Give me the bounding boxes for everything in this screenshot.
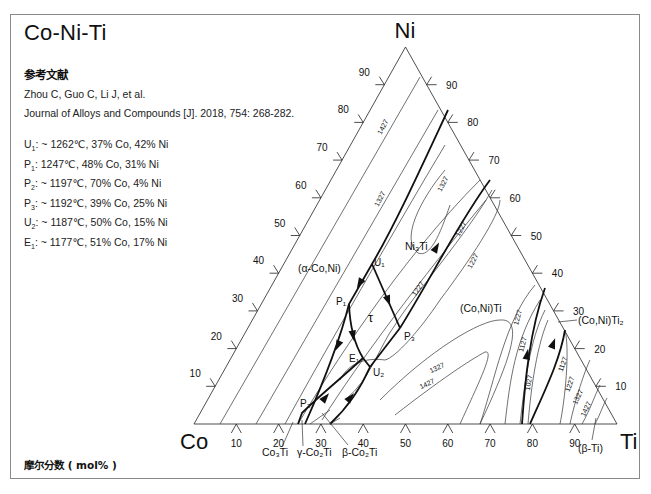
isotherm-line bbox=[380, 320, 513, 424]
phase-label-co-ni-ti: (Co,Ni)Ti bbox=[460, 302, 502, 314]
corner-label-co: Co bbox=[180, 429, 208, 454]
left-tick-label: 30 bbox=[232, 293, 244, 304]
phase-label-beta-co2ti: β-Co₂Ti bbox=[342, 446, 377, 458]
ternary-diagram: 1090102080203070304060405050506040607030… bbox=[0, 0, 651, 494]
isotherm-label: 1427 bbox=[418, 377, 435, 390]
isotherm-label: 1427 bbox=[579, 400, 592, 417]
isotherm-line bbox=[310, 410, 330, 424]
phase-label-ni3ti: Ni₃Ti bbox=[405, 240, 428, 252]
bottom-tick-label: 50 bbox=[400, 438, 412, 449]
right-tick-label: 50 bbox=[531, 231, 543, 242]
phase-label-tau: τ bbox=[368, 310, 374, 325]
left-tick-label: 60 bbox=[295, 180, 307, 191]
left-tick-label: 40 bbox=[253, 255, 265, 266]
isotherm-label: 1227 bbox=[512, 309, 523, 326]
univariant-line bbox=[370, 328, 400, 367]
isotherm-label: 1327 bbox=[436, 175, 450, 192]
phase-label-co-ni-ti2: (Co,Ni)Ti₂ bbox=[578, 314, 624, 326]
isotherm-label: 1327 bbox=[571, 388, 584, 405]
left-tick-label: 80 bbox=[338, 104, 350, 115]
isotherm-label: 1227 bbox=[564, 376, 576, 393]
right-tick-label: 70 bbox=[488, 155, 500, 166]
left-tick-label: 10 bbox=[190, 368, 202, 379]
right-tick-label: 80 bbox=[467, 117, 479, 128]
right-tick-label: 60 bbox=[510, 193, 522, 204]
phase-label-gamma-co2ti: γ-Co₂Ti bbox=[297, 446, 332, 458]
isotherm-line bbox=[528, 320, 548, 424]
right-tick-label: 10 bbox=[615, 381, 627, 392]
right-tick-label: 40 bbox=[552, 268, 564, 279]
direction-arrow-icon bbox=[350, 331, 355, 338]
direction-arrow-icon bbox=[432, 245, 438, 252]
point-label-u1: U₁ bbox=[374, 257, 385, 268]
point-label-u2: U₂ bbox=[373, 367, 384, 378]
univariant-line bbox=[372, 264, 400, 328]
univariant-line bbox=[298, 358, 363, 424]
left-tick-label: 20 bbox=[211, 331, 223, 342]
direction-arrow-icon bbox=[524, 352, 529, 359]
isotherm-line bbox=[595, 398, 607, 424]
direction-arrow-icon bbox=[321, 395, 327, 402]
direction-arrow-icon bbox=[337, 341, 342, 348]
phase-label-co3ti: Co₃Ti bbox=[262, 446, 288, 458]
corner-label-ti: Ti bbox=[620, 429, 638, 454]
left-tick-label: 50 bbox=[274, 218, 286, 229]
isotherm-label: 1327 bbox=[373, 190, 387, 207]
isotherm-line bbox=[220, 77, 420, 424]
bottom-tick-label: 70 bbox=[485, 438, 497, 449]
bottom-tick-label: 80 bbox=[527, 438, 539, 449]
isotherm-line bbox=[256, 110, 438, 424]
bottom-tick-label: 10 bbox=[231, 438, 243, 449]
isotherm-label: 1227 bbox=[454, 220, 468, 237]
point-label-p1: P₁ bbox=[336, 296, 347, 307]
isotherm-label: 1227 bbox=[466, 252, 480, 269]
left-tick-label: 90 bbox=[359, 67, 371, 78]
corner-label-ni: Ni bbox=[395, 18, 416, 43]
left-tick-label: 70 bbox=[316, 142, 328, 153]
phase-label-alpha-co-ni: (α-Co,Ni) bbox=[298, 262, 341, 274]
right-tick-label: 90 bbox=[446, 80, 458, 91]
phase-label-beta-ti: (β-Ti) bbox=[578, 442, 603, 454]
point-label-p2: P₂ bbox=[300, 398, 311, 409]
direction-arrow-icon bbox=[550, 341, 555, 348]
isotherm-label: 1327 bbox=[428, 361, 445, 374]
bottom-tick-label: 60 bbox=[442, 438, 454, 449]
point-label-p3: P₃ bbox=[404, 331, 415, 342]
right-tick-label: 20 bbox=[594, 344, 606, 355]
point-label-e1: E₁ bbox=[349, 353, 360, 364]
univariant-line bbox=[530, 330, 565, 424]
isotherm-label: 1127 bbox=[517, 336, 528, 352]
direction-arrow-icon bbox=[385, 296, 390, 303]
